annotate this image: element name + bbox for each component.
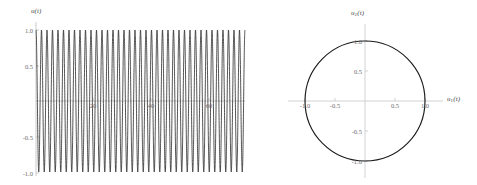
x-tick-label: 60 [206, 102, 213, 109]
y-tick-label: -0.5 [23, 134, 33, 141]
phase-portrait-panel: u2(t) u1(t) -1.0 -0.5 0.5 1.0 1.0 0.5 -0… [260, 0, 477, 185]
y-axis-label: u(t) [31, 7, 42, 15]
x-axis-label: u1(t) [447, 95, 460, 103]
x-tick-label: 20 [90, 102, 97, 109]
y-tick-label: 1.0 [25, 27, 33, 34]
x-axis-label-arg: (t) [453, 95, 460, 103]
y-axis-label-arg: (t) [357, 9, 364, 17]
phase-portrait-plot [260, 0, 477, 185]
y-axis-label: u2(t) [351, 9, 364, 17]
x-tick-label: 1.0 [421, 102, 429, 109]
figure-root: u(t) 1.0 0.5 -0.5 -1.0 20 40 60 [0, 0, 477, 185]
y-tick-label: 0.5 [354, 68, 362, 75]
x-tick-label: -1.0 [300, 102, 310, 109]
y-tick-label: 1.0 [354, 38, 362, 45]
x-tick-label: 40 [148, 102, 155, 109]
x-tick-label: -0.5 [330, 102, 340, 109]
time-series-panel: u(t) 1.0 0.5 -0.5 -1.0 20 40 60 [0, 0, 260, 185]
y-tick-label: -1.0 [352, 158, 362, 165]
time-series-plot [0, 0, 260, 185]
y-tick-label: 0.5 [25, 63, 33, 70]
y-tick-label: -0.5 [352, 128, 362, 135]
y-tick-label: -1.0 [23, 170, 33, 177]
x-tick-label: 0.5 [391, 102, 399, 109]
